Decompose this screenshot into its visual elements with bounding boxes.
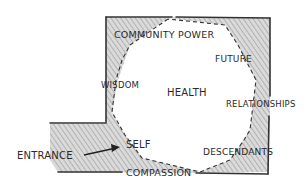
label-future: FUTURE	[215, 55, 252, 64]
wall-top-right	[176, 17, 270, 18]
wall-bottom-right	[196, 173, 268, 174]
label-community-power: COMMUNITY POWER	[114, 30, 214, 40]
label-health: HEALTH	[167, 88, 207, 98]
label-descendants: DESCENDANTS	[203, 148, 273, 157]
label-self: SELF	[126, 140, 151, 150]
label-wisdom: WISDOM	[101, 81, 139, 90]
label-relationships: RELATIONSHIPS	[226, 100, 296, 109]
label-compassion: COMPASSION	[126, 168, 191, 178]
label-entrance: ENTRANCE	[17, 151, 73, 161]
wall-right-lower	[268, 116, 269, 174]
diagram-canvas: COMMUNITY POWER FUTURE WISDOM HEALTH REL…	[0, 0, 306, 194]
